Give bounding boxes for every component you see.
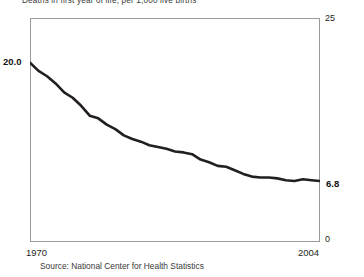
y-axis-min-label: 0 <box>325 234 330 244</box>
plot-area <box>30 18 320 242</box>
start-value-callout: 20.0 <box>3 56 22 67</box>
y-axis-max-label: 25 <box>325 13 335 23</box>
x-axis-start-year-label: 1970 <box>26 247 47 258</box>
source-note: Source: National Center for Health Stati… <box>40 261 204 271</box>
infant-mortality-chart-figure: Deaths in first year of life, per 1,000 … <box>0 0 364 277</box>
x-axis-end-year-label: 2004 <box>298 247 319 258</box>
chart-subtitle: Deaths in first year of life, per 1,000 … <box>22 0 196 6</box>
end-value-callout: 6.8 <box>326 178 339 189</box>
infant-mortality-line <box>30 63 320 181</box>
